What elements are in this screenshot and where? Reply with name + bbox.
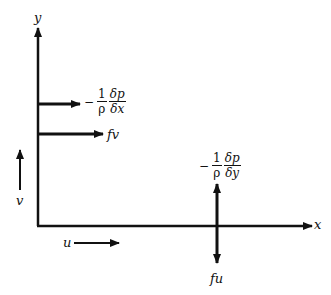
coriolis-fv-label: fv — [107, 128, 119, 141]
pressure-x-label: − 1ρ δpδx — [84, 88, 128, 115]
u-label: u — [63, 236, 71, 249]
geostrophic-balance-diagram: y x v u − 1ρ δpδx fv − 1ρ δpδy fu — [0, 0, 331, 295]
diagram-lines — [0, 0, 331, 295]
y-axis-label: y — [34, 11, 41, 24]
x-axis-label: x — [314, 218, 321, 231]
pressure-y-label: − 1ρ δpδy — [199, 152, 243, 179]
v-label: v — [16, 194, 23, 207]
coriolis-fu-label: fu — [210, 272, 223, 285]
